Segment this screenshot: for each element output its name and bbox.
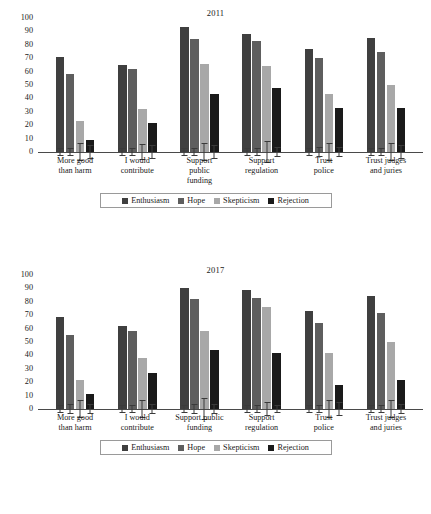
- bar-rejection: [210, 350, 219, 409]
- y-tick-label: 40: [25, 351, 33, 359]
- y-tick-label: 10: [25, 134, 33, 142]
- bar-rejection: [210, 94, 219, 152]
- bar-skepticism: [325, 353, 334, 409]
- x-axis-category-label: Supportpublicfunding: [168, 156, 230, 186]
- bar-group: [106, 275, 168, 409]
- legend-label: Enthusiasm: [131, 196, 169, 205]
- legend-label: Enthusiasm: [131, 443, 169, 452]
- y-tick-label: 10: [25, 391, 33, 399]
- figure-page: 2011 1009080706050403020100 More goodtha…: [0, 0, 431, 514]
- bar-rejection: [272, 353, 281, 409]
- bar-skepticism: [262, 66, 271, 152]
- x-axis-category-label: Trustpolice: [293, 413, 355, 433]
- legend-item-skepticism: Skepticism: [214, 196, 259, 205]
- bar-hope: [128, 331, 137, 409]
- bar-rejection: [397, 108, 406, 152]
- y-tick-label: 100: [21, 271, 33, 279]
- legend-item-hope: Hope: [178, 196, 205, 205]
- legend-item-enthusiasm: Enthusiasm: [122, 443, 169, 452]
- bar-skepticism: [200, 331, 209, 409]
- y-tick-label: 80: [25, 41, 33, 49]
- plot-wrap-2011: 1009080706050403020100: [0, 18, 431, 153]
- y-tick-label: 50: [25, 338, 33, 346]
- bar-enthusiasm: [367, 296, 376, 409]
- bar-group: [231, 18, 293, 152]
- bar-skepticism: [200, 64, 209, 152]
- legend-item-rejection: Rejection: [268, 443, 308, 452]
- bar-skepticism: [387, 342, 396, 409]
- bar-hope: [128, 69, 137, 152]
- y-tick-label: 50: [25, 81, 33, 89]
- bar-skepticism: [138, 109, 147, 152]
- y-tick-label: 90: [25, 27, 33, 35]
- bar-enthusiasm: [118, 65, 127, 152]
- legend-2011: EnthusiasmHopeSkepticismRejection: [100, 193, 332, 208]
- legend-label: Hope: [187, 443, 205, 452]
- x-axis-category-label: Support publicfunding: [168, 413, 230, 433]
- y-tick-label: 60: [25, 324, 33, 332]
- legend-label: Skepticism: [223, 443, 259, 452]
- x-axis-category-label: More goodthan harm: [44, 413, 106, 433]
- bar-hope: [190, 39, 199, 152]
- bar-group: [355, 18, 417, 152]
- y-tick-label: 40: [25, 94, 33, 102]
- bar-group: [44, 275, 106, 409]
- bar-hope: [190, 299, 199, 409]
- bar-group: [293, 18, 355, 152]
- legend-item-hope: Hope: [178, 443, 205, 452]
- legend-swatch-icon: [268, 445, 274, 451]
- x-axis-category-label: Trustpolice: [293, 156, 355, 186]
- bar-enthusiasm: [242, 34, 251, 152]
- bar-enthusiasm: [180, 27, 189, 152]
- y-tick-label: 20: [25, 121, 33, 129]
- y-axis-2011: 1009080706050403020100: [0, 18, 36, 152]
- y-tick-label: 60: [25, 67, 33, 75]
- bar-groups-2011: [38, 18, 423, 152]
- bar-rejection: [86, 394, 95, 409]
- bar-groups-2017: [38, 275, 423, 409]
- bar-hope: [377, 313, 386, 409]
- plot-area-2017: [38, 275, 423, 410]
- y-tick-label: 30: [25, 365, 33, 373]
- bar-rejection: [397, 380, 406, 409]
- y-tick-label: 70: [25, 311, 33, 319]
- bar-group: [168, 18, 230, 152]
- bar-enthusiasm: [305, 311, 314, 409]
- bar-skepticism: [138, 358, 147, 409]
- y-tick-label: 100: [21, 14, 33, 22]
- chart-panel-2017: 2017 1009080706050403020100 More goodtha…: [0, 257, 431, 514]
- bar-enthusiasm: [305, 49, 314, 152]
- bar-rejection: [148, 373, 157, 409]
- bar-group: [293, 275, 355, 409]
- y-axis-2017: 1009080706050403020100: [0, 275, 36, 409]
- y-tick-label: 70: [25, 54, 33, 62]
- legend-2017: EnthusiasmHopeSkepticismRejection: [100, 440, 332, 455]
- plot-wrap-2017: 1009080706050403020100: [0, 275, 431, 410]
- bar-group: [168, 275, 230, 409]
- bar-rejection: [335, 385, 344, 409]
- bar-group: [355, 275, 417, 409]
- legend-swatch-icon: [214, 445, 220, 451]
- chart-title-2017: 2017: [0, 257, 431, 275]
- x-axis-category-label: I wouldcontribute: [106, 413, 168, 433]
- x-axis-category-label: Trust judgesand juries: [355, 413, 417, 433]
- x-axis-category-label: Trust judgesand juries: [355, 156, 417, 186]
- bar-enthusiasm: [118, 326, 127, 409]
- legend-item-enthusiasm: Enthusiasm: [122, 196, 169, 205]
- x-axis-category-label: More goodthan harm: [44, 156, 106, 186]
- x-axis-category-label: I wouldcontribute: [106, 156, 168, 186]
- bar-hope: [315, 58, 324, 152]
- chart-panel-2011: 2011 1009080706050403020100 More goodtha…: [0, 0, 431, 257]
- legend-swatch-icon: [178, 445, 184, 451]
- legend-swatch-icon: [122, 445, 128, 451]
- y-tick-label: 20: [25, 378, 33, 386]
- bar-skepticism: [325, 94, 334, 152]
- bar-hope: [66, 335, 75, 409]
- bar-rejection: [86, 140, 95, 152]
- x-axis-category-label: Supportregulation: [231, 156, 293, 186]
- legend-label: Hope: [187, 196, 205, 205]
- legend-swatch-icon: [268, 198, 274, 204]
- y-tick-label: 90: [25, 284, 33, 292]
- bar-hope: [66, 74, 75, 152]
- bar-rejection: [148, 123, 157, 152]
